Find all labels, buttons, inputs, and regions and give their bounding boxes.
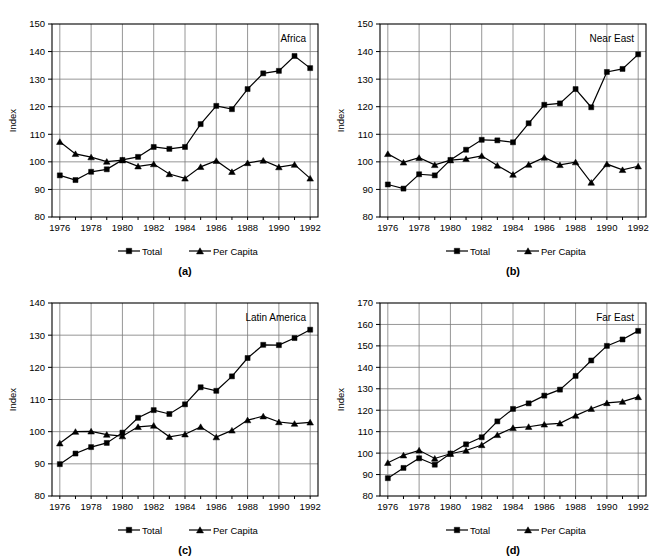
y-tick-label: 140 [357, 362, 373, 373]
legend-total-label: Total [142, 525, 162, 536]
square-marker [229, 374, 234, 379]
y-tick-label: 100 [29, 426, 45, 437]
triangle-marker [385, 460, 392, 466]
legend-total-label: Total [142, 246, 162, 257]
square-marker [73, 178, 78, 183]
triangle-marker [416, 155, 423, 161]
legend-per-capita-label: Per Capita [541, 246, 587, 257]
y-tick-label: 130 [29, 330, 45, 341]
square-marker [245, 356, 250, 361]
panel-region-title: Africa [280, 33, 306, 44]
square-marker [89, 445, 94, 450]
y-tick-label: 100 [357, 156, 373, 167]
square-marker [385, 182, 390, 187]
chart-legend: TotalPer Capita [118, 246, 259, 257]
square-marker [136, 415, 141, 420]
y-axis: 8090100110120130140 [29, 297, 52, 501]
y-axis-title: Index [335, 388, 346, 411]
x-axis: 197619781980198219841986198819901992 [377, 496, 648, 512]
square-marker [401, 186, 406, 191]
y-tick-label: 90 [34, 184, 45, 195]
square-marker [557, 387, 562, 392]
square-marker [604, 343, 609, 348]
square-marker [454, 527, 459, 532]
x-axis: 197619781980198219841986198819901992 [377, 217, 648, 233]
square-marker [417, 172, 422, 177]
square-marker [573, 373, 578, 378]
legend-total-label: Total [470, 246, 490, 257]
x-tick-label: 1990 [268, 222, 289, 233]
y-tick-label: 120 [29, 362, 45, 373]
x-tick-label: 1980 [440, 501, 461, 512]
gridlines [52, 24, 318, 217]
x-tick-label: 1982 [471, 501, 492, 512]
y-tick-label: 160 [357, 319, 373, 330]
x-tick-label: 1978 [81, 222, 102, 233]
y-tick-label: 130 [29, 74, 45, 85]
square-marker [126, 248, 131, 253]
square-marker [511, 140, 516, 145]
square-marker [167, 411, 172, 416]
y-tick-label: 110 [30, 129, 45, 140]
panel-region-title: Near East [590, 33, 635, 44]
x-tick-label: 1992 [628, 222, 649, 233]
gridlines [52, 303, 318, 496]
square-marker [57, 462, 62, 467]
square-marker [261, 71, 266, 76]
chart-panel-far-east: 8090100110120130140150160170197619781980… [328, 279, 655, 557]
square-marker [261, 342, 266, 347]
triangle-marker [541, 154, 548, 160]
y-tick-label: 90 [362, 184, 373, 195]
y-tick-label: 80 [34, 211, 45, 222]
legend-per-capita-label: Per Capita [541, 525, 587, 536]
y-axis: 8090100110120130140150 [357, 18, 380, 222]
y-tick-label: 110 [30, 394, 45, 405]
x-tick-label: 1976 [377, 501, 398, 512]
x-tick-label: 1988 [565, 222, 586, 233]
square-marker [620, 66, 625, 71]
square-marker [464, 442, 469, 447]
panel-caption: (c) [178, 544, 192, 556]
square-marker [573, 87, 578, 92]
triangle-marker [260, 413, 267, 419]
x-tick-label: 1986 [206, 501, 227, 512]
triangle-marker [197, 424, 204, 430]
square-marker [214, 388, 219, 393]
square-marker [183, 402, 188, 407]
x-axis: 197619781980198219841986198819901992 [49, 496, 320, 512]
x-tick-label: 1982 [471, 222, 492, 233]
square-marker [276, 68, 281, 73]
y-tick-label: 150 [357, 340, 373, 351]
y-tick-label: 110 [358, 426, 373, 437]
square-marker [542, 102, 547, 107]
x-tick-label: 1984 [174, 501, 195, 512]
y-tick-label: 170 [357, 297, 373, 308]
y-axis-title: Index [7, 388, 18, 411]
triangle-marker [463, 448, 470, 454]
square-marker [292, 336, 297, 341]
y-tick-label: 140 [29, 297, 45, 308]
square-marker [151, 408, 156, 413]
square-marker [198, 385, 203, 390]
x-tick-label: 1978 [409, 501, 430, 512]
y-tick-label: 130 [357, 74, 373, 85]
square-marker [495, 419, 500, 424]
y-axis-title: Index [7, 109, 18, 132]
x-tick-label: 1984 [502, 222, 523, 233]
triangle-marker [588, 406, 595, 412]
square-marker [454, 248, 459, 253]
y-tick-label: 140 [29, 46, 45, 57]
y-axis-title: Index [335, 109, 346, 132]
square-marker [89, 169, 94, 174]
x-tick-label: 1990 [596, 222, 617, 233]
panel-caption: (b) [506, 265, 520, 277]
square-marker [495, 138, 500, 143]
y-tick-label: 80 [34, 490, 45, 501]
x-tick-label: 1990 [596, 501, 617, 512]
x-tick-label: 1980 [440, 222, 461, 233]
chart-legend: TotalPer Capita [118, 525, 259, 536]
gridlines [380, 303, 646, 496]
square-marker [589, 105, 594, 110]
panel-caption: (a) [178, 265, 192, 277]
triangle-marker [635, 394, 642, 400]
